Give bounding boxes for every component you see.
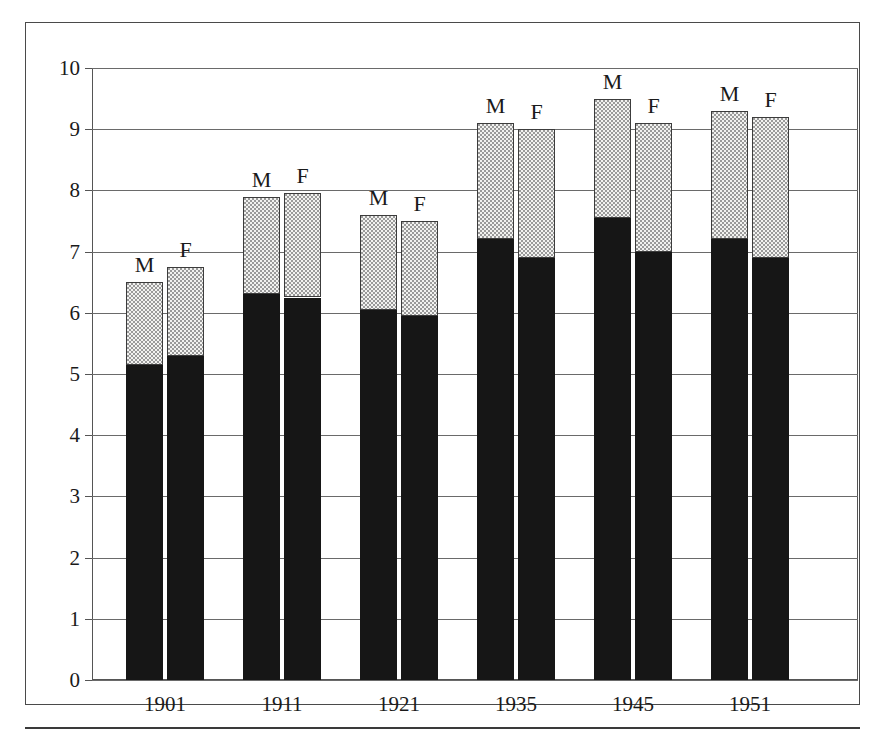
y-tick-8 <box>85 190 92 191</box>
bottom-horizontal-rule <box>25 727 860 729</box>
bar-group-1901: MF <box>126 68 204 680</box>
x-tick-label-1951: 1951 <box>729 694 771 715</box>
bar-lower-segment-1901-F <box>167 356 204 680</box>
bar-upper-segment-1945-F <box>635 123 672 252</box>
y-tick-9 <box>85 129 92 130</box>
y-tick-label-5: 5 <box>70 364 81 385</box>
y-tick-10 <box>85 68 92 69</box>
figure-frame: 012345678910 MFMFMFMFMFMF 19011911192119… <box>25 22 860 705</box>
bar-group-1911: MF <box>243 68 321 680</box>
bar-group-1945: MF <box>594 68 672 680</box>
y-tick-5 <box>85 374 92 375</box>
bar-series-label-1945-F: F <box>647 95 659 117</box>
y-tick-label-1: 1 <box>70 608 81 629</box>
y-tick-1 <box>85 619 92 620</box>
bar-upper-segment-1951-M <box>711 111 748 240</box>
y-tick-6 <box>85 313 92 314</box>
y-tick-label-3: 3 <box>70 486 81 507</box>
bar-1921-F[interactable]: F <box>401 68 438 680</box>
y-tick-7 <box>85 252 92 253</box>
bar-lower-segment-1945-F <box>635 252 672 680</box>
gridline-0 <box>92 680 858 681</box>
y-tick-label-9: 9 <box>70 119 81 140</box>
bar-upper-segment-1911-M <box>243 197 280 295</box>
bar-series-label-1935-F: F <box>530 101 542 123</box>
y-tick-3 <box>85 496 92 497</box>
bar-upper-segment-1921-F <box>401 221 438 316</box>
bar-group-1951: MF <box>711 68 789 680</box>
y-tick-label-7: 7 <box>70 241 81 262</box>
bar-lower-segment-1911-M <box>243 294 280 680</box>
x-tick-label-1911: 1911 <box>261 694 302 715</box>
chart-plot-area: 012345678910 MFMFMFMFMFMF 19011911192119… <box>92 68 858 680</box>
bar-lower-segment-1945-M <box>594 218 631 680</box>
bar-1921-M[interactable]: M <box>360 68 397 680</box>
bar-upper-segment-1901-F <box>167 267 204 356</box>
y-tick-label-2: 2 <box>70 547 81 568</box>
y-tick-2 <box>85 558 92 559</box>
bar-1911-F[interactable]: F <box>284 68 321 680</box>
y-tick-label-4: 4 <box>70 425 81 446</box>
bar-series-label-1945-M: M <box>603 71 623 93</box>
bar-1901-F[interactable]: F <box>167 68 204 680</box>
bar-upper-segment-1921-M <box>360 215 397 310</box>
y-tick-label-10: 10 <box>59 58 80 79</box>
bar-1951-F[interactable]: F <box>752 68 789 680</box>
bar-series-label-1935-M: M <box>486 95 506 117</box>
bar-series-label-1921-M: M <box>369 187 389 209</box>
bar-group-1935: MF <box>477 68 555 680</box>
x-tick-label-1935: 1935 <box>495 694 537 715</box>
bar-lower-segment-1935-M <box>477 239 514 680</box>
bar-upper-segment-1935-F <box>518 129 555 258</box>
bar-1935-M[interactable]: M <box>477 68 514 680</box>
bar-1935-F[interactable]: F <box>518 68 555 680</box>
y-tick-4 <box>85 435 92 436</box>
bar-lower-segment-1935-F <box>518 258 555 680</box>
y-tick-label-0: 0 <box>70 670 81 691</box>
bar-1951-M[interactable]: M <box>711 68 748 680</box>
bar-1945-M[interactable]: M <box>594 68 631 680</box>
bar-lower-segment-1921-F <box>401 316 438 680</box>
y-tick-label-8: 8 <box>70 180 81 201</box>
x-tick-label-1921: 1921 <box>378 694 420 715</box>
x-tick-label-1901: 1901 <box>144 694 186 715</box>
bar-series-label-1951-F: F <box>764 89 776 111</box>
bar-series-label-1911-M: M <box>252 169 272 191</box>
bar-upper-segment-1901-M <box>126 282 163 365</box>
bar-1911-M[interactable]: M <box>243 68 280 680</box>
y-tick-label-6: 6 <box>70 302 81 323</box>
bar-series-label-1901-F: F <box>179 239 191 261</box>
bar-series-label-1951-M: M <box>720 83 740 105</box>
bar-upper-segment-1945-M <box>594 99 631 218</box>
bar-1945-F[interactable]: F <box>635 68 672 680</box>
y-tick-0 <box>85 680 92 681</box>
bar-series-label-1921-F: F <box>413 193 425 215</box>
bar-lower-segment-1951-F <box>752 258 789 680</box>
bar-group-1921: MF <box>360 68 438 680</box>
bar-1901-M[interactable]: M <box>126 68 163 680</box>
bar-upper-segment-1951-F <box>752 117 789 258</box>
bar-upper-segment-1911-F <box>284 193 321 297</box>
bar-lower-segment-1911-F <box>284 298 321 681</box>
bar-series-label-1911-F: F <box>296 165 308 187</box>
bar-lower-segment-1921-M <box>360 310 397 680</box>
bar-lower-segment-1951-M <box>711 239 748 680</box>
bar-upper-segment-1935-M <box>477 123 514 239</box>
bar-series-label-1901-M: M <box>135 254 155 276</box>
x-tick-label-1945: 1945 <box>612 694 654 715</box>
bar-lower-segment-1901-M <box>126 365 163 680</box>
